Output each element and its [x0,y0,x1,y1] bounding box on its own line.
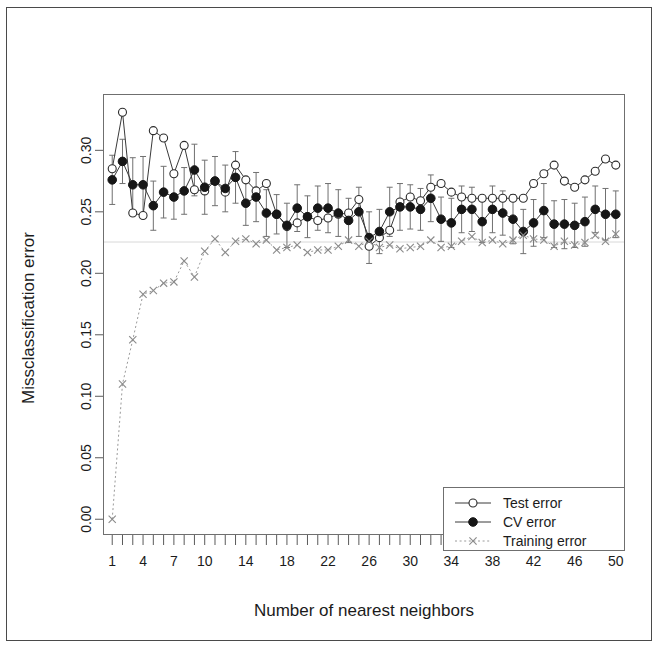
marker-test-error [602,155,610,163]
marker-training-error [139,291,146,298]
y-tick-label: 0.15 [78,321,94,348]
marker-cv-error [375,227,384,236]
marker-test-error [242,176,250,184]
y-tick-label: 0.10 [78,382,94,409]
y-tick-label: 0.20 [78,259,94,286]
x-tick-label: 30 [402,553,418,569]
marker-cv-error [570,221,579,230]
marker-test-error [468,194,476,202]
marker-cv-error [591,205,600,214]
marker-cv-error [509,215,518,224]
marker-cv-error [200,183,209,192]
marker-test-error [355,196,363,204]
marker-cv-error [149,201,158,210]
marker-test-error [509,194,517,202]
marker-test-error [293,219,301,227]
y-tick-label: 0.00 [78,505,94,532]
marker-training-error [252,240,259,247]
legend-label: Test error [503,495,562,511]
marker-test-error [262,180,270,188]
marker-test-error [591,167,599,175]
marker-cv-error [498,209,507,218]
marker-test-error [170,170,178,178]
marker-test-error [550,161,558,169]
y-tick-label: 0.25 [78,198,94,225]
marker-cv-error [540,206,549,215]
marker-cv-error [355,208,364,217]
marker-cv-error [252,193,261,202]
marker-training-error [335,243,342,250]
marker-training-error [294,241,301,248]
marker-cv-error [385,208,394,217]
cv-error-bars-layer [109,139,619,263]
marker-test-error [232,161,240,169]
marker-cv-error [406,203,415,212]
marker-test-error [149,127,157,135]
marker-test-error [139,212,147,220]
marker-test-error [560,177,568,185]
marker-test-error [530,180,538,188]
marker-cv-error [488,205,497,214]
marker-training-error [211,235,218,242]
x-tick-label: 46 [567,553,583,569]
marker-test-error [478,194,486,202]
x-tick-label: 42 [526,553,542,569]
marker-cv-error [159,188,168,197]
marker-cv-error [262,209,271,218]
marker-cv-error [139,180,148,189]
marker-cv-error [221,184,230,193]
marker-training-error [181,257,188,264]
x-tick-label: 4 [139,553,147,569]
marker-training-error [222,249,229,256]
series-line-training-error [112,234,616,519]
marker-training-error [232,238,239,245]
marker-test-error [386,226,394,234]
marker-test-error [190,186,198,194]
marker-training-error [304,249,311,256]
marker-training-error [386,241,393,248]
legend-marker-filled-circle [469,518,478,527]
page-canvas: 0.000.050.100.150.200.250.30 14710141822… [0,0,659,650]
marker-training-error [129,336,136,343]
marker-cv-error [581,217,590,226]
marker-cv-error [478,217,487,226]
chart-figure: 0.000.050.100.150.200.250.30 14710141822… [0,0,659,650]
marker-training-error [242,235,249,242]
series-markers-layer [108,108,620,523]
marker-cv-error [457,205,466,214]
marker-training-error [499,240,506,247]
y-axis-title: Missclassification error [19,232,38,404]
x-tick-label: 26 [361,553,377,569]
marker-cv-error [324,204,333,213]
marker-training-error [201,248,208,255]
marker-test-error [540,170,548,178]
marker-test-error [581,176,589,184]
marker-training-error [468,233,475,240]
marker-cv-error [334,209,343,218]
marker-test-error [118,108,126,116]
marker-cv-error [108,176,117,185]
marker-training-error [396,245,403,252]
marker-cv-error [313,204,322,213]
marker-training-error [407,244,414,251]
marker-test-error [488,194,496,202]
chart-legend: Test errorCV errorTraining error [444,488,625,551]
marker-cv-error [396,203,405,212]
legend-marker-open-circle [469,499,477,507]
marker-test-error [417,197,425,205]
x-tick-label: 50 [608,553,624,569]
x-tick-label: 38 [485,553,501,569]
marker-cv-error [128,180,137,189]
y-tick-label: 0.30 [78,136,94,163]
marker-cv-error [468,205,477,214]
plot-panel-frame [104,95,625,535]
y-axis: 0.000.050.100.150.200.250.30 [78,136,103,532]
marker-cv-error [242,199,251,208]
marker-cv-error [293,204,302,213]
marker-test-error [314,216,322,224]
marker-training-error [417,243,424,250]
marker-cv-error [550,220,559,229]
marker-training-error [150,287,157,294]
misclassification-error-chart: 0.000.050.100.150.200.250.30 14710141822… [0,0,659,650]
marker-cv-error [231,173,240,182]
